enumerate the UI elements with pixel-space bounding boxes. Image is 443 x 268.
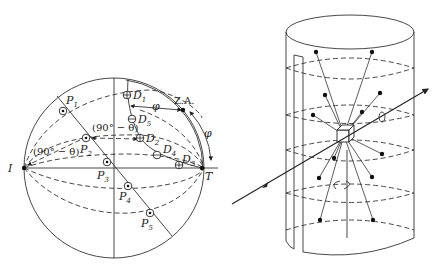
label-T: T (205, 170, 214, 183)
stereogram: I T Z.A. φ φ (90° − θ) (90° − θ) P1 P2 P… (7, 78, 218, 258)
svg-text:D4: D4 (162, 143, 176, 158)
pole-D1: D1 (123, 89, 146, 104)
pole-D3: D3 (175, 153, 196, 169)
svg-text:D1: D1 (132, 89, 146, 104)
svg-text:P2: P2 (79, 143, 92, 158)
cylinder-top (286, 15, 414, 49)
label-ZA: Z.A. (174, 95, 194, 106)
cylinder-camera (232, 15, 428, 255)
svg-text:D2: D2 (145, 132, 160, 147)
label-I: I (7, 162, 13, 175)
pole-D2: D2 (136, 132, 160, 147)
svg-text:P1: P1 (65, 94, 78, 109)
point-ZA (181, 108, 185, 112)
point-T (200, 166, 204, 170)
svg-text:P3: P3 (96, 169, 109, 184)
svg-text:D3: D3 (181, 153, 196, 168)
svg-text:D5: D5 (137, 113, 152, 128)
label-phi-right: φ (204, 127, 212, 140)
pole-P3: P3 (96, 158, 111, 184)
label-phi-top: φ (152, 100, 160, 113)
pole-P2: P2 (79, 134, 92, 158)
angle-arrow-upper (92, 138, 137, 139)
svg-text:P5: P5 (140, 217, 153, 232)
label-angle-upper: (90° − θ) (92, 122, 138, 133)
figure-canvas: I T Z.A. φ φ (90° − θ) (90° − θ) P1 P2 P… (0, 0, 443, 268)
point-I (22, 166, 26, 170)
cylinder-bottom (303, 238, 414, 255)
pole-P4: P4 (118, 182, 132, 205)
zone-line-P (57, 96, 172, 236)
svg-text:P4: P4 (118, 190, 131, 205)
pole-P5: P5 (140, 209, 154, 232)
pole-P1: P1 (59, 94, 78, 115)
